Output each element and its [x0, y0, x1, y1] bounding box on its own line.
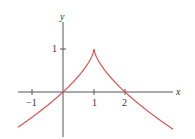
function-graph: −1 1 2 1 x y — [0, 0, 195, 139]
x-tick-label-neg1: −1 — [26, 97, 37, 108]
y-axis-label: y — [59, 11, 65, 22]
y-tick-label-1: 1 — [52, 43, 57, 54]
x-tick-label-1: 1 — [92, 97, 97, 108]
x-axis-label: x — [175, 86, 181, 97]
x-tick-label-2: 2 — [122, 97, 127, 108]
function-curve — [18, 49, 173, 129]
